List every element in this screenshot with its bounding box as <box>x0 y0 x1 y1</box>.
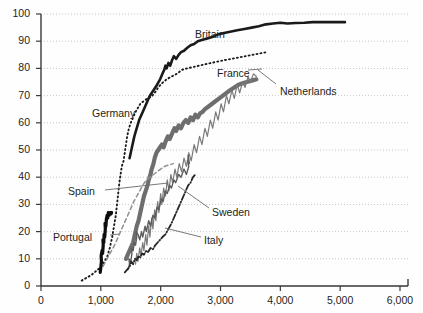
y-axis-tick-label: 40 <box>4 170 30 182</box>
series-label-france: France <box>217 67 250 79</box>
x-axis-tick-label: 6,000 <box>370 294 423 306</box>
series-label-italy: Italy <box>204 234 223 246</box>
y-axis-tick-label: 50 <box>4 143 30 155</box>
leader-line-netherlands-leader <box>258 70 276 84</box>
chart-root: 010203040506070809010001,0002,0003,0004,… <box>0 0 423 313</box>
y-axis-tick-label: 30 <box>4 197 30 209</box>
x-axis-tick-label: 3,000 <box>191 294 251 306</box>
y-axis-tick-label: 0 <box>4 279 30 291</box>
leader-line-spain-leader <box>105 183 168 190</box>
x-axis-tick-label: 2,000 <box>131 294 191 306</box>
x-axis-tick-label: 1,000 <box>71 294 131 306</box>
leader-line-france-leader <box>248 69 262 70</box>
y-axis-tick-label: 80 <box>4 61 30 73</box>
y-axis-tick-label: 90 <box>4 34 30 46</box>
series-label-britain: Britain <box>195 28 225 40</box>
series-line-portugal <box>100 213 111 273</box>
leader-line-portugal-leader <box>110 234 119 235</box>
x-axis-tick-label: 5,000 <box>310 294 370 306</box>
series-line-italy <box>125 174 196 272</box>
series-label-netherlands: Netherlands <box>280 85 337 97</box>
series-label-portugal: Portugal <box>53 231 92 243</box>
urbanization-gdp-chart <box>0 0 423 313</box>
y-axis-tick-label: 100 <box>4 7 30 19</box>
y-axis-tick-label: 20 <box>4 225 30 237</box>
x-axis-tick-label: 4,000 <box>250 294 310 306</box>
y-axis-tick-label: 60 <box>4 116 30 128</box>
x-axis-tick-label: 0 <box>11 294 71 306</box>
y-axis-tick-label: 10 <box>4 252 30 264</box>
series-label-sweden: Sweden <box>212 206 250 218</box>
leader-line-italy-leader <box>165 228 201 237</box>
series-label-germany: Germany <box>92 107 135 119</box>
series-label-spain: Spain <box>68 185 95 197</box>
y-axis-tick-label: 70 <box>4 89 30 101</box>
